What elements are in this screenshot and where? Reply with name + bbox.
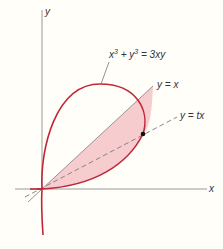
intersection-point <box>141 132 146 137</box>
y-axis-label: y <box>44 6 51 17</box>
line-y-equals-tx-label: y = tx <box>179 110 205 121</box>
x-axis-label: x <box>208 183 215 194</box>
equation-leader-line <box>101 62 109 84</box>
line-y-equals-x-label: y = x <box>156 79 179 90</box>
curve-equation-label: x3 + y3 = 3xy <box>108 48 166 60</box>
folium-diagram: y x x3 + y3 = 3xy y = x y = tx <box>0 0 223 249</box>
